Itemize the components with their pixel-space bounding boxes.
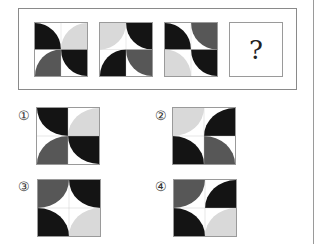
option-2-figure[interactable] (172, 107, 236, 165)
quarter-disc-bottom-right (204, 136, 235, 164)
quarter-disc-bottom-left (174, 208, 205, 236)
quarter-disc-bottom-left (173, 136, 204, 164)
quarter-disc-top-right (204, 108, 235, 136)
option-3-figure[interactable] (37, 179, 101, 237)
quarter-disc-bottom-right (191, 50, 217, 77)
quarter-disc-top-right (68, 108, 99, 136)
quarter-disc-bottom-right (69, 208, 100, 236)
quarter-disc-top-left (35, 23, 61, 50)
quarter-disc-bottom-left (37, 136, 68, 164)
quarter-disc-bottom-left (38, 208, 69, 236)
option-3-label: ③ (18, 180, 30, 193)
quarter-disc-bottom-right (126, 50, 152, 77)
quarter-disc-top-left (174, 180, 205, 208)
quarter-disc-bottom-right (205, 208, 236, 236)
quarter-disc-top-left (100, 23, 126, 50)
sequence-figure-3 (164, 22, 218, 77)
quarter-disc-bottom-left (35, 50, 61, 77)
option-4-label: ④ (155, 180, 167, 193)
option-1-label: ① (18, 109, 30, 122)
sequence-figure-1 (34, 22, 88, 77)
question-mark: ? (249, 35, 263, 65)
page-divider (313, 0, 314, 244)
quarter-disc-top-right (205, 180, 236, 208)
quarter-disc-top-right (69, 180, 100, 208)
sequence-figure-2 (99, 22, 153, 77)
option-4-figure[interactable] (173, 179, 237, 237)
quarter-disc-top-left (37, 108, 68, 136)
option-1-figure[interactable] (36, 107, 100, 165)
quarter-disc-top-right (61, 23, 87, 50)
quarter-disc-top-right (126, 23, 152, 50)
missing-figure-box: ? (229, 22, 283, 77)
quarter-disc-top-left (173, 108, 204, 136)
option-2-label: ② (155, 109, 167, 122)
quarter-disc-top-left (38, 180, 69, 208)
quarter-disc-bottom-left (100, 50, 126, 77)
quarter-disc-bottom-right (68, 136, 99, 164)
quarter-disc-top-right (191, 23, 217, 50)
quarter-disc-bottom-right (61, 50, 87, 77)
quarter-disc-top-left (165, 23, 191, 50)
quarter-disc-bottom-left (165, 50, 191, 77)
